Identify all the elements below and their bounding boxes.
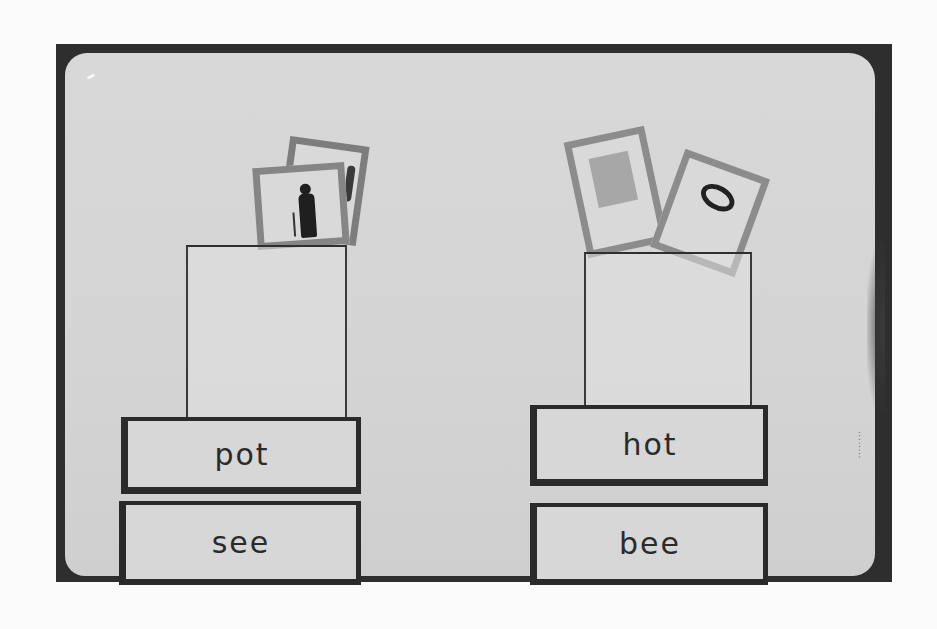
person-with-cane-icon (294, 183, 320, 240)
left-pocket (186, 245, 347, 417)
word-hot: hot (622, 427, 677, 462)
picture-card-front-left (252, 162, 349, 250)
light-glare (87, 73, 96, 79)
edge-stamp: ········ (854, 431, 863, 459)
word-see: see (212, 525, 271, 560)
word-bee: bee (619, 526, 681, 561)
word-card-hot: hot (530, 405, 768, 486)
door-icon (589, 151, 639, 208)
letter-a-icon (696, 178, 739, 217)
word-pot: pot (214, 437, 269, 472)
word-card-pot: pot (121, 417, 361, 494)
photograph: pot see hot bee ········ (56, 44, 892, 582)
word-card-see: see (119, 501, 361, 585)
right-pocket (584, 252, 752, 414)
pocket-board: pot see hot bee ········ (65, 53, 875, 576)
word-card-bee: bee (530, 503, 768, 585)
